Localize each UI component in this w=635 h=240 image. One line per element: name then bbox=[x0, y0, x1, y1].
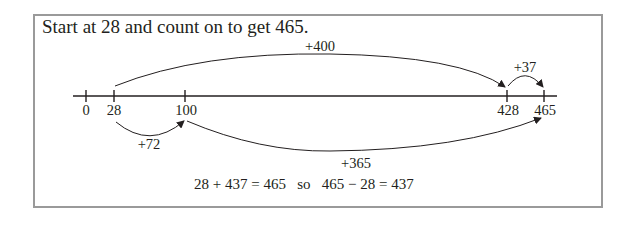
number-line bbox=[73, 90, 557, 102]
jump-arrow-plus-400 bbox=[115, 54, 505, 87]
jump-label-plus-400: +400 bbox=[305, 38, 335, 55]
jump-arrow-plus-365 bbox=[187, 118, 541, 151]
tick-label-0: 0 bbox=[82, 102, 89, 119]
tick-label-100: 100 bbox=[175, 102, 197, 119]
jump-label-plus-72: +72 bbox=[138, 136, 161, 153]
equation: 28 + 437 = 465 so 465 − 28 = 437 bbox=[194, 176, 414, 193]
jump-label-plus-37: +37 bbox=[514, 59, 537, 76]
tick-label-465: 465 bbox=[534, 102, 556, 119]
tick-label-28: 28 bbox=[107, 102, 122, 119]
jump-arrow-plus-72 bbox=[116, 121, 184, 136]
jump-label-plus-365: +365 bbox=[341, 155, 371, 172]
tick-label-428: 428 bbox=[497, 102, 519, 119]
jump-arrow-plus-37 bbox=[508, 76, 543, 87]
